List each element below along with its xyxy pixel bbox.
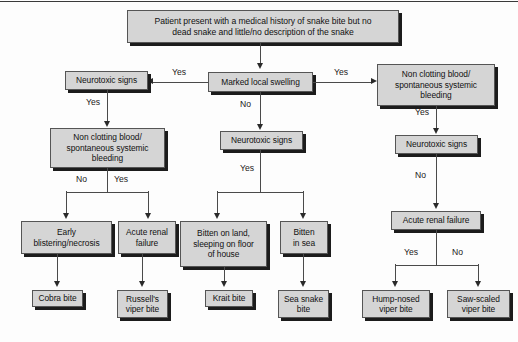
node-acute-renal-failure-left: Acute renal failure xyxy=(118,221,176,254)
connector-noncotting-left-to-arf-left xyxy=(148,191,149,214)
arrowhead-to-hump-nosed-viper-bite xyxy=(392,281,398,287)
node-neurotoxic-signs-right: Neurotoxic signs xyxy=(395,135,478,154)
node-saw-scaled-viper-bite: Saw-scaled viper bite xyxy=(447,290,510,318)
connector-arf-left-to-russells xyxy=(142,254,143,282)
node-root: Patient present with a medical history o… xyxy=(127,10,399,43)
edge-label-arf-right-yes: Yes xyxy=(404,247,418,257)
edge-label-noncotting-left-no: No xyxy=(76,174,87,184)
connector-noncotting-right-to-neuro-right xyxy=(436,106,437,129)
arrowhead-to-bitten-land xyxy=(214,213,220,219)
arrowhead-to-russells-viper-bite xyxy=(139,281,145,287)
connector-swelling-to-noncotting-right xyxy=(313,82,372,83)
arrowhead-root-to-swelling xyxy=(257,63,263,69)
edge-label-swelling-yes-left: Yes xyxy=(172,67,186,77)
arrowhead-neuro-left-to-noncotting-left xyxy=(104,121,110,127)
arrowhead-to-saw-scaled-viper-bite xyxy=(475,281,481,287)
node-hump-nosed-viper-bite: Hump-nosed viper bite xyxy=(362,290,430,318)
arrowhead-to-early-blistering xyxy=(63,213,69,219)
edge-label-swelling-yes-right: Yes xyxy=(334,67,348,77)
edge-label-noncotting-left-yes: Yes xyxy=(114,174,128,184)
connector-noncotting-left-stem xyxy=(107,168,108,192)
connector-noncotting-left-to-early-blistering xyxy=(66,191,67,214)
node-non-clotting-blood-right: Non clotting blood/ spontaneous systemic… xyxy=(377,64,495,106)
edge-label-swelling-no: No xyxy=(240,99,251,109)
node-acute-renal-failure-right: Acute renal failure xyxy=(391,211,481,230)
arrowhead-noncotting-right-to-neuro-right xyxy=(433,128,439,134)
edge-label-noncotting-right-yes: Yes xyxy=(415,107,429,117)
connector-swelling-to-neuro-left xyxy=(152,82,208,83)
node-sea-snake-bite: Sea snake bite xyxy=(278,290,329,318)
node-bitten-on-land: Bitten on land, sleeping on floor of hou… xyxy=(180,221,267,267)
connector-arf-right-split xyxy=(395,265,478,266)
arrowhead-to-arf-left xyxy=(145,213,151,219)
node-marked-local-swelling: Marked local swelling xyxy=(208,72,313,92)
connector-to-hump-nosed xyxy=(395,264,396,282)
connector-bitten-sea-to-sea-snake xyxy=(303,254,304,282)
connector-neuro-center-split xyxy=(217,192,303,193)
node-cobra-bite: Cobra bite xyxy=(32,290,83,307)
arrowhead-swelling-to-neuro-center xyxy=(257,124,263,130)
edge-label-arf-right-no: No xyxy=(452,247,463,257)
node-early-blistering-necrosis: Early blistering/necrosis xyxy=(21,221,112,254)
top-divider-rule xyxy=(0,1,518,2)
node-krait-bite: Krait bite xyxy=(205,290,253,307)
arrowhead-to-bitten-sea xyxy=(300,213,306,219)
connector-arf-right-stem xyxy=(436,230,437,265)
connector-root-to-swelling xyxy=(260,43,261,64)
connector-neuro-center-stem xyxy=(260,150,261,192)
arrowhead-to-krait-bite xyxy=(221,281,227,287)
node-russells-viper-bite: Russell's viper bite xyxy=(117,290,168,318)
node-neurotoxic-signs-center: Neurotoxic signs xyxy=(220,131,303,150)
arrowhead-to-cobra-bite xyxy=(54,281,60,287)
connector-early-blistering-to-cobra xyxy=(57,254,58,282)
connector-to-bitten-sea xyxy=(303,191,304,214)
edge-label-neuro-left-yes: Yes xyxy=(86,97,100,107)
node-neurotoxic-signs-left: Neurotoxic signs xyxy=(65,71,148,90)
connector-neuro-right-to-arf-right xyxy=(436,154,437,204)
connector-neuro-left-to-noncotting-left xyxy=(107,90,108,122)
edge-label-neuro-right-no: No xyxy=(415,170,426,180)
connector-to-bitten-land xyxy=(217,191,218,214)
connector-to-saw-scaled xyxy=(478,264,479,282)
connector-noncotting-left-split xyxy=(66,192,148,193)
flowchart-canvas: Patient present with a medical history o… xyxy=(0,0,518,342)
connector-swelling-to-neuro-center xyxy=(260,92,261,125)
arrowhead-neuro-right-to-arf-right xyxy=(433,203,439,209)
node-non-clotting-blood-left: Non clotting blood/ spontaneous systemic… xyxy=(50,128,165,168)
edge-label-neuro-center-yes: Yes xyxy=(240,163,254,173)
arrowhead-to-sea-snake-bite xyxy=(300,281,306,287)
connector-bitten-land-to-krait xyxy=(224,267,225,282)
node-bitten-in-sea: Bitten in sea xyxy=(280,221,328,254)
